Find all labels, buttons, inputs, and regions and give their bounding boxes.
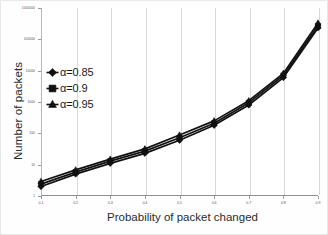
legend-label: α=0.95	[60, 98, 94, 110]
square-marker-icon	[46, 82, 59, 95]
x-tick-mark	[76, 196, 77, 199]
y-tick-label: 10000	[26, 69, 35, 73]
chart-legend: α=0.85α=0.9α=0.95	[46, 64, 108, 112]
x-tick-label: 0.1	[33, 201, 49, 206]
x-tick-label: 0.7	[241, 201, 257, 206]
x-tick-mark	[283, 196, 284, 199]
x-tick-label: 0.5	[172, 201, 188, 206]
legend-label: α=0.85	[60, 66, 94, 78]
legend-item-1[interactable]: α=0.85	[46, 64, 108, 80]
data-point-marker	[315, 20, 321, 25]
y-tick-label: 1000	[27, 100, 35, 104]
x-axis-tick-labels: 0.10.20.30.40.50.60.70.80.9	[0, 196, 328, 210]
x-tick-label: 0.2	[68, 201, 84, 206]
x-tick-label: 0.6	[206, 201, 222, 206]
x-tick-label: 0.4	[137, 201, 153, 206]
legend-item-2[interactable]: α=0.9	[46, 80, 108, 96]
x-tick-mark	[41, 196, 42, 199]
legend-label: α=0.9	[60, 82, 88, 94]
x-tick-label: 0.8	[275, 201, 291, 206]
y-tick-label: 10	[31, 163, 35, 167]
x-axis-title: Probability of packet changed	[40, 211, 325, 223]
x-tick-mark	[110, 196, 111, 199]
x-tick-label: 0.3	[102, 201, 118, 206]
triangle-marker-icon	[46, 98, 59, 111]
x-tick-mark	[145, 196, 146, 199]
y-tick-label: 100	[29, 131, 35, 135]
x-tick-label: 0.9	[310, 201, 326, 206]
x-tick-mark	[214, 196, 215, 199]
chart-figure: Number of packets 1000000100000100001000…	[0, 0, 328, 235]
y-axis-tick-labels: 1000000100000100001000100101	[0, 0, 40, 204]
y-tick-label: 1000000	[22, 6, 35, 10]
legend-item-3[interactable]: α=0.95	[46, 96, 108, 112]
x-gridline	[319, 8, 320, 195]
x-tick-mark	[249, 196, 250, 199]
x-tick-mark	[318, 196, 319, 199]
diamond-marker-icon	[46, 66, 59, 79]
y-tick-label: 100000	[24, 37, 35, 41]
x-tick-mark	[180, 196, 181, 199]
